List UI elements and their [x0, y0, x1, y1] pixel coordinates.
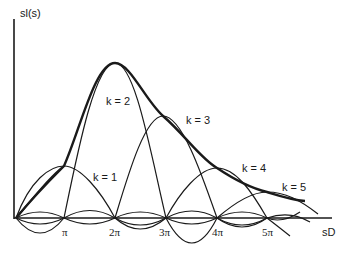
curve-k2: [64, 63, 166, 218]
label-k3: k = 3: [186, 114, 210, 126]
x-tick-3pi: 3π: [159, 226, 171, 238]
curve-k4: [166, 168, 267, 218]
label-k5: k = 5: [282, 181, 306, 193]
x-tick-pi: π: [62, 226, 68, 238]
label-k1: k = 1: [93, 171, 117, 183]
figure-plot: sl(s) sD π 2π 3π 4π 5π k = 1 k = 2 k = 3…: [0, 0, 352, 263]
side-lobe-curve-e: [217, 218, 290, 236]
label-k2: k = 2: [106, 95, 130, 107]
x-tick-4pi: 4π: [212, 226, 224, 238]
y-axis-label: sl(s): [20, 7, 41, 19]
curve-k5: [217, 192, 318, 218]
curve-k3: [115, 116, 217, 218]
x-axis-label: sD: [322, 226, 336, 238]
label-k4: k = 4: [242, 162, 266, 174]
x-tick-5pi: 5π: [262, 226, 274, 238]
x-tick-2pi: 2π: [109, 226, 121, 238]
side-lobe-curve-c: [16, 218, 64, 233]
